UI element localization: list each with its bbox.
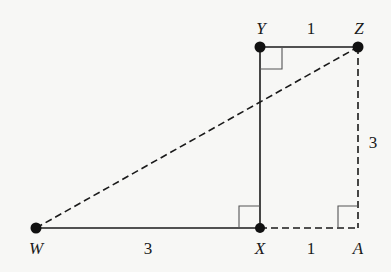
label-Y: Y [256,19,267,38]
geometry-diagram: Y Z W X A 1 3 3 1 [0,0,391,272]
label-W: W [29,239,45,258]
right-angle-marker-A [338,206,358,228]
point-Y [255,42,266,53]
point-Z [353,42,364,53]
length-ZA: 3 [369,133,378,152]
label-X: X [254,239,266,258]
label-A: A [352,239,364,258]
segment-WZ-dashed [36,47,358,228]
length-WX: 3 [144,239,153,258]
length-YZ: 1 [307,19,316,38]
point-W [31,223,42,234]
length-XA: 1 [307,239,316,258]
label-Z: Z [354,19,364,38]
point-X [255,223,265,233]
